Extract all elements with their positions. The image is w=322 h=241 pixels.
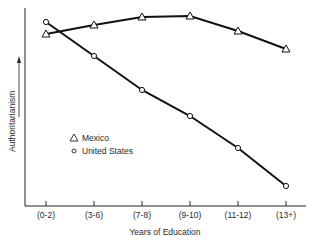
legend: Mexico United States [70, 133, 133, 156]
x-tick-label: (9-10) [179, 210, 202, 220]
legend-label-united-states: United States [82, 146, 133, 156]
x-tick-label: (3-6) [85, 210, 103, 220]
legend-triangle-icon [70, 134, 78, 141]
circle-marker-icon [235, 145, 240, 150]
legend-circle-icon [72, 149, 76, 153]
x-axis-title: Years of Education [129, 227, 200, 237]
circle-marker-icon [91, 53, 96, 58]
circle-marker-icon [139, 87, 144, 92]
legend-label-mexico: Mexico [82, 133, 109, 143]
circle-marker-icon [43, 19, 48, 24]
y-axis-arrow-icon [17, 56, 21, 117]
line-chart: Authoritarianism (0-2) (3-6) (7-8) (9-10… [0, 0, 322, 241]
x-tick-label: (0-2) [37, 210, 55, 220]
series-line-mexico [46, 16, 286, 49]
y-axis-title: Authoritarianism [7, 91, 17, 152]
x-tick-label: (13+) [276, 210, 296, 220]
x-ticks [46, 201, 286, 206]
x-tick-label: (7-8) [133, 210, 151, 220]
x-tick-label: (11-12) [225, 210, 252, 220]
circle-marker-icon [283, 183, 288, 188]
circle-marker-icon [187, 113, 192, 118]
series-line-united-states [46, 22, 286, 186]
